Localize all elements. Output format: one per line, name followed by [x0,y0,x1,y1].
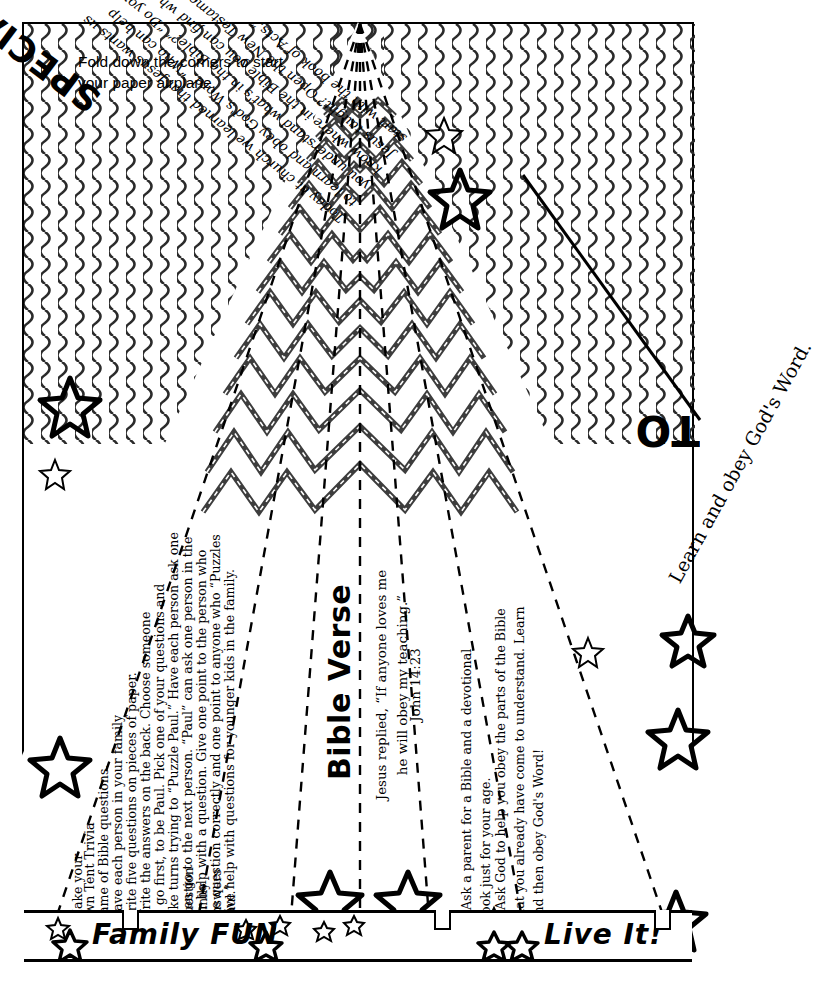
live-it-bullet-1: Ask a parent for a Bible and a devotiona… [458,622,496,922]
family-fun-line-2: own Tent Trivia [82,612,97,922]
family-fun-line-12: Give help with questions for younger kid… [222,522,237,922]
live-it-bullet-2: Ask God to help you obey the parts of th… [492,602,549,922]
family-fun-line-3: game of Bible questions. [96,612,111,922]
to-label: TO [636,406,700,455]
family-fun-line-7: to go first, to be Paul. Pick one of you… [152,552,167,922]
bottom-banner: Family FUN Live It! [24,910,692,962]
bible-verse-reference: John 14:23 [408,565,423,805]
bible-verse-heading: Bible Verse [322,584,357,780]
banner-stars [24,910,692,962]
family-fun-line-6: Write the answers on the back. Choose so… [138,562,153,922]
live-it-bullet-2-text: Ask God to help you obey the parts of th… [493,606,546,922]
family-fun-line-4: Have each person in your family [110,592,125,922]
live-it-bullet-1-text: Ask a parent for a Bible and a devotiona… [459,649,493,922]
family-fun-line-5: write five questions on pieces of paper. [124,582,139,922]
